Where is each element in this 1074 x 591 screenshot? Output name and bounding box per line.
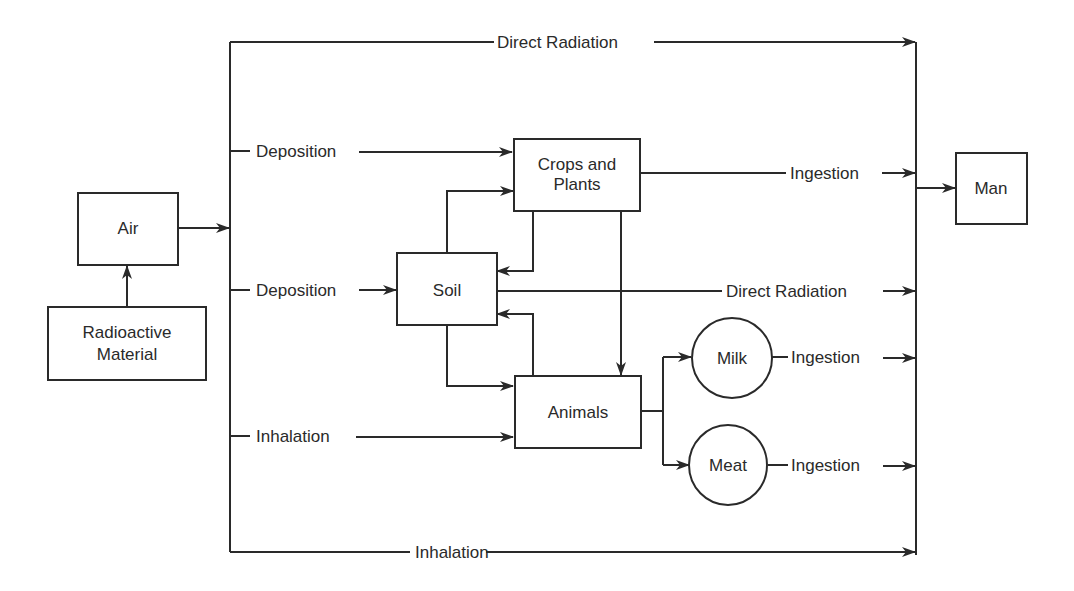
node-crops-and-plants: Crops and Plants: [514, 139, 640, 211]
edge-label: Ingestion: [791, 456, 860, 475]
edge-crops-ingestion: Ingestion: [640, 164, 915, 183]
node-label: Air: [118, 219, 139, 238]
node-animals: Animals: [515, 376, 641, 448]
node-label: Meat: [709, 456, 747, 475]
node-label: Radioactive: [83, 323, 172, 342]
edge-label: Deposition: [256, 142, 336, 161]
edge-bottom-inhalation: Inhalation: [230, 543, 915, 562]
node-meat: Meat: [689, 425, 767, 505]
edge-milk-ingestion: Ingestion: [772, 348, 915, 367]
edge-crops-to-soil: [497, 211, 533, 271]
edge-label: Direct Radiation: [497, 33, 618, 52]
node-label: Plants: [553, 175, 600, 194]
edge-top-direct-radiation: Direct Radiation: [230, 33, 915, 52]
edge-label: Inhalation: [415, 543, 489, 562]
edge-soil-direct-radiation: Direct Radiation: [497, 282, 915, 301]
edge-soil-to-crops: [447, 191, 513, 253]
node-label: Man: [974, 179, 1007, 198]
radiation-pathway-diagram: Direct Radiation Deposition Deposition I…: [0, 0, 1074, 591]
edge-deposition-crops: Deposition: [230, 142, 512, 161]
node-milk: Milk: [692, 318, 772, 398]
node-label: Material: [97, 345, 157, 364]
node-label: Soil: [433, 281, 461, 300]
edge-label: Ingestion: [790, 164, 859, 183]
edge-inhalation-animals: Inhalation: [230, 427, 513, 446]
edge-animals-to-soil: [497, 314, 533, 375]
node-man: Man: [956, 153, 1027, 224]
edge-label: Inhalation: [256, 427, 330, 446]
edge-soil-to-animals: [447, 325, 513, 386]
edge-label: Ingestion: [791, 348, 860, 367]
edge-label: Direct Radiation: [726, 282, 847, 301]
node-radioactive-material: Radioactive Material: [48, 307, 206, 380]
edge-deposition-soil: Deposition: [230, 281, 396, 300]
node-label: Milk: [717, 349, 748, 368]
edge-meat-ingestion: Ingestion: [768, 456, 915, 475]
node-label: Crops and: [538, 155, 616, 174]
edge-label: Deposition: [256, 281, 336, 300]
node-label: Animals: [548, 403, 608, 422]
node-air: Air: [78, 193, 178, 265]
node-soil: Soil: [397, 253, 497, 325]
